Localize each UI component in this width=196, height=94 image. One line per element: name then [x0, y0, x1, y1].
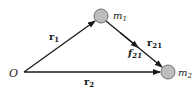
- mass-m2: [161, 65, 175, 79]
- vector-r21-label: r21: [147, 37, 162, 50]
- origin-label: O: [9, 67, 18, 80]
- mass-m2-label: m2: [178, 67, 192, 80]
- vector-r2-label: r2: [84, 76, 94, 89]
- vector-f21-arrow: [120, 33, 138, 48]
- mass-m1: [94, 9, 108, 23]
- mass-m1-label: m1: [113, 10, 127, 23]
- vector-r1-label: r1: [49, 31, 59, 44]
- vector-diagram: O m1 m2 r1 r2 r21 f21: [0, 0, 196, 94]
- vector-r1-line: [24, 21, 95, 72]
